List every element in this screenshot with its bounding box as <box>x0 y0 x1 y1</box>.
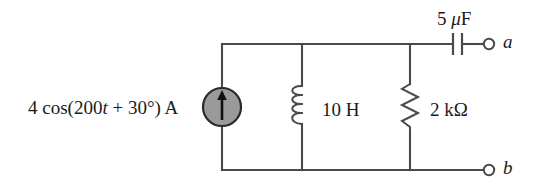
resistor-symbol <box>402 84 418 131</box>
terminal-a-circle <box>484 39 494 49</box>
inductor-label: 10 H <box>322 100 359 119</box>
capacitor-label: 5 μF <box>437 9 471 28</box>
resistor-label: 2 kΩ <box>430 100 468 119</box>
inductor-coil-4 <box>292 113 302 124</box>
current-source-label-prefix: 4 cos(200 <box>28 97 102 118</box>
capacitor-label-mu: μ <box>451 8 461 29</box>
inductor-coil-3 <box>292 104 302 113</box>
inductor-coil-2 <box>292 95 302 104</box>
current-source-label-suffix: + 30°) A <box>108 97 179 118</box>
terminal-nodes <box>484 39 494 175</box>
resistor-zigzag <box>402 84 418 131</box>
circuit-diagram-figure: 4 cos(200t + 30°) A 10 H 2 kΩ 5 μF a b <box>0 0 550 196</box>
capacitor-label-unit: F <box>461 8 472 29</box>
current-source-symbol <box>203 88 241 126</box>
capacitor-label-value: 5 <box>437 8 451 29</box>
inductor-coil-1 <box>292 86 302 95</box>
terminal-b-label: b <box>503 158 513 177</box>
terminal-a-label: a <box>503 32 513 51</box>
capacitor-symbol <box>453 33 462 55</box>
current-source-label: 4 cos(200t + 30°) A <box>28 98 178 117</box>
terminal-b-circle <box>484 165 494 175</box>
inductor-symbol <box>292 86 302 124</box>
